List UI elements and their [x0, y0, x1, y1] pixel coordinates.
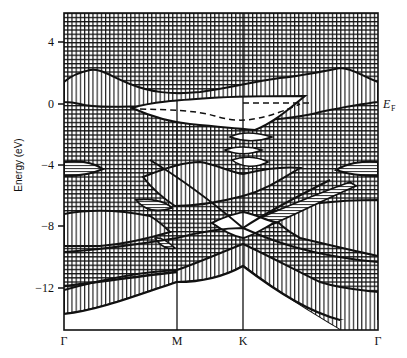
ef-label-sub: F [391, 104, 396, 113]
y-tick-label-0: 0 [48, 97, 54, 111]
kpoint-label-gamma-right: Γ [375, 334, 382, 348]
lowest-band-right-strip [340, 320, 378, 330]
kpoint-label-k: K [239, 334, 248, 348]
y-tick-label-m4: −4 [41, 158, 54, 172]
x-axis: Γ M K Γ [61, 334, 382, 348]
kpoint-label-gamma-left: Γ [61, 334, 68, 348]
band-structure-chart: 4 0 −4 −8 −12 Energy (eV) Γ M K Γ E F [0, 0, 407, 358]
y-tick-label-m12: −12 [35, 281, 54, 295]
y-axis: 4 0 −4 −8 −12 Energy (eV) [13, 35, 64, 295]
ef-label-main: E [382, 97, 391, 111]
fermi-level-label: E F [382, 97, 396, 113]
y-tick-label-4: 4 [48, 35, 54, 49]
plot-area [64, 13, 378, 330]
y-tick-label-m8: −8 [41, 219, 54, 233]
y-axis-label: Energy (eV) [13, 138, 24, 191]
kpoint-label-m: M [172, 334, 183, 348]
